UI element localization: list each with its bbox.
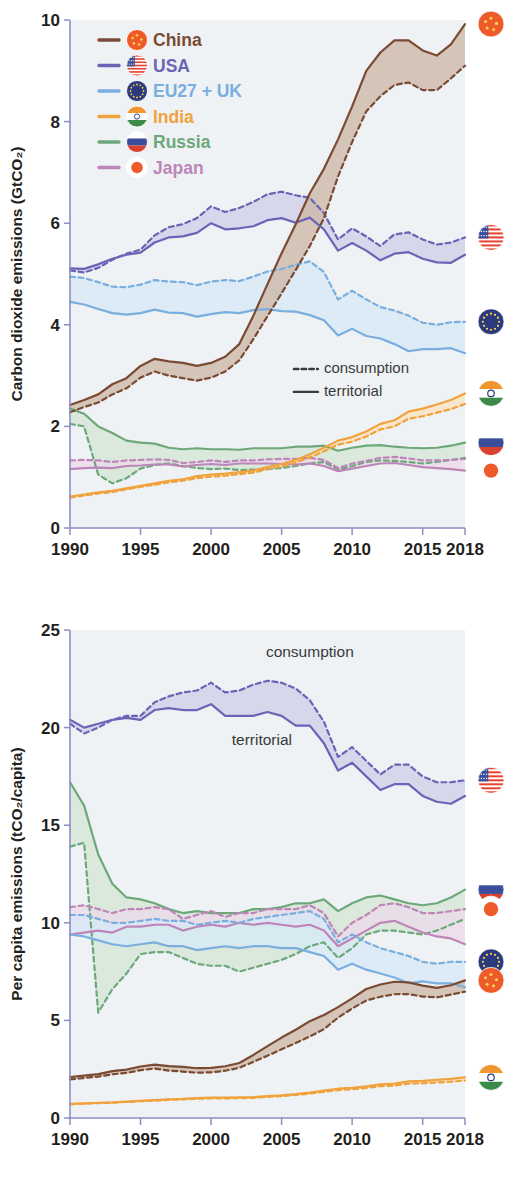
flag-icon-eu (127, 81, 148, 102)
y-tick-label: 6 (51, 214, 60, 233)
y-tick-label: 8 (51, 113, 60, 132)
style-legend-label: territorial (324, 382, 382, 399)
x-tick-label: 2018 (446, 1130, 484, 1149)
annotation-label: territorial (232, 731, 292, 748)
y-axis-title: Carbon dioxide emissions (GtCO₂) (8, 147, 25, 402)
x-tick-label: 2015 (404, 1130, 442, 1149)
y-tick-label: 4 (51, 316, 61, 335)
x-tick-label: 2010 (333, 540, 371, 559)
y-tick-label: 10 (41, 11, 60, 30)
annotation-label: consumption (266, 643, 354, 660)
flag-icon-eu (478, 309, 504, 335)
flag-icon-china (478, 967, 504, 993)
style-legend-label: consumption (324, 359, 409, 376)
legend-label-eu27-uk: EU27 + UK (153, 81, 242, 101)
flag-icon-russia (478, 430, 504, 456)
flag-icon-russia (127, 132, 148, 153)
y-tick-label: 20 (41, 719, 60, 738)
x-tick-label: 2005 (263, 1130, 301, 1149)
legend-label-usa: USA (153, 56, 190, 76)
y-tick-label: 2 (51, 417, 60, 436)
flag-icon-india (478, 380, 504, 406)
legend-label-china: China (153, 30, 202, 50)
x-tick-label: 1990 (51, 1130, 89, 1149)
x-tick-label: 1995 (122, 540, 160, 559)
x-tick-label: 2010 (333, 1130, 371, 1149)
flag-icon-japan (478, 896, 504, 922)
legend-label-russia: Russia (153, 132, 211, 152)
y-tick-label: 25 (41, 621, 60, 640)
y-tick-label: 5 (51, 1011, 60, 1030)
x-tick-label: 2015 (404, 540, 442, 559)
flag-icon-usa (474, 767, 508, 793)
x-tick-label: 1995 (122, 1130, 160, 1149)
legend-label-japan: Japan (153, 158, 204, 178)
flag-icon-japan (127, 157, 148, 178)
y-tick-label: 15 (41, 816, 60, 835)
flag-icon-usa (474, 224, 508, 250)
per-capita-emissions-svg: 05101520251990199520002005201020152018Pe… (0, 596, 511, 1187)
chart-per-capita-emissions: 05101520251990199520002005201020152018Pe… (0, 596, 511, 1187)
x-tick-label: 2018 (446, 540, 484, 559)
flag-icon-india (127, 106, 148, 127)
total-emissions-svg: 02468101990199520002005201020152018Carbo… (0, 0, 511, 596)
x-tick-label: 2005 (263, 540, 301, 559)
x-tick-label: 2000 (192, 540, 230, 559)
flag-icon-india (478, 1064, 504, 1090)
legend-label-india: India (153, 107, 194, 127)
y-tick-label: 0 (51, 1109, 60, 1128)
y-tick-label: 0 (51, 519, 60, 538)
x-tick-label: 1990 (51, 540, 89, 559)
y-tick-label: 10 (41, 914, 60, 933)
x-tick-label: 2000 (192, 1130, 230, 1149)
y-axis-title: Per capita emissions (tCO₂/capita) (8, 747, 25, 1000)
flag-icon-japan (478, 458, 504, 484)
flag-icon-china (127, 30, 148, 51)
chart-total-emissions: 02468101990199520002005201020152018Carbo… (0, 0, 511, 596)
figure-page: 02468101990199520002005201020152018Carbo… (0, 0, 511, 1187)
flag-icon-china (478, 11, 504, 37)
